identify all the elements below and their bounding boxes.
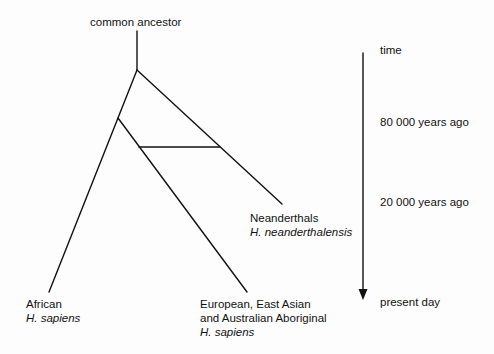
leaf-african-species: H. sapiens [26,311,80,326]
time-axis-label: time [380,43,402,58]
root-label: common ancestor [90,15,181,30]
time-tick-80000: 80 000 years ago [380,115,469,130]
time-arrowhead-icon [359,289,368,300]
leaf-african-name: African [26,297,62,312]
leaf-eurasian-species: H. sapiens [200,325,254,340]
leaf-eurasian-name-line2: and Australian Aboriginal [200,311,327,326]
time-tick-20000: 20 000 years ago [380,195,469,210]
neanderthal-lineage-line [137,70,282,204]
african-lineage-line [49,70,137,292]
leaf-eurasian-name-line1: European, East Asian [200,297,311,312]
leaf-neanderthal-name: Neanderthals [250,211,318,226]
time-tick-present: present day [380,295,440,310]
leaf-neanderthal-species: H. neanderthalensis [250,225,352,240]
eurasian-lineage-line [118,118,247,292]
